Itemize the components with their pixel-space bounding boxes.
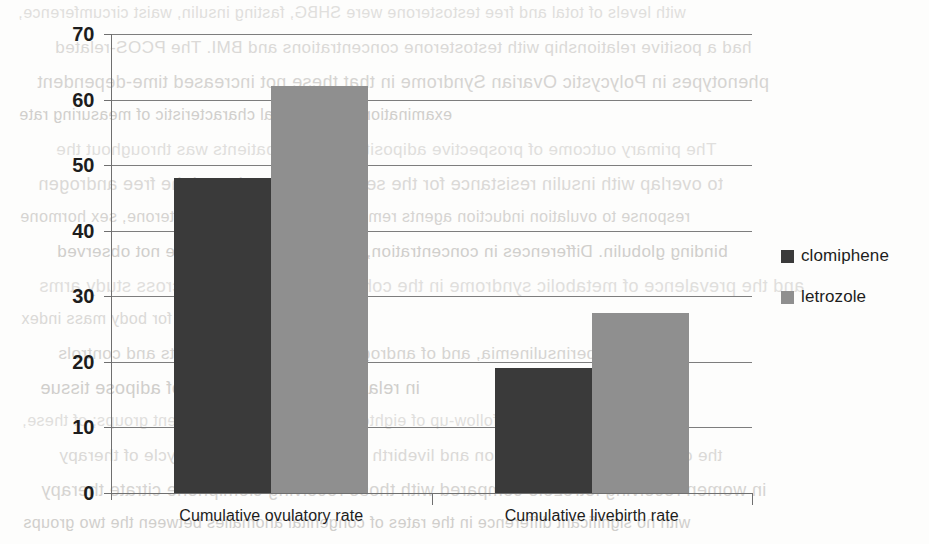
gridline [111,100,752,101]
x-axis-category-label: Cumulative livebirth rate [432,507,753,525]
y-axis-tick [104,165,111,166]
legend-label: letrozole [801,287,866,307]
y-axis-tick [104,34,111,35]
y-axis-tick-label: 70 [28,23,94,46]
y-axis-tick [104,231,111,232]
y-axis-tick-label: 60 [28,88,94,111]
bar-letrozole-2 [592,313,689,493]
bar-letrozole-1 [271,86,368,493]
grouped-bar-chart: 706050403020100Cumulative ovulatory rate… [0,0,929,544]
bar-clomiphene-1 [174,178,271,493]
legend-item-clomiphene: clomiphene [781,247,929,265]
x-axis-category-separator [752,494,753,505]
gridline [111,34,752,35]
y-axis-tick [104,493,111,494]
y-axis-tick [104,296,111,297]
y-axis-tick [104,100,111,101]
y-axis-line [111,34,112,500]
y-axis-tick [104,427,111,428]
y-axis-tick [104,362,111,363]
legend-label: clomiphene [801,246,889,266]
legend-item-letrozole: letrozole [781,288,929,306]
y-axis-tick-label: 20 [28,350,94,373]
y-axis-tick-label: 50 [28,154,94,177]
chart-legend: clomipheneletrozole [781,247,929,329]
plot-area [111,34,752,493]
legend-swatch-icon [781,250,794,263]
scanned-page: with levels of total and free testostero… [0,0,929,544]
gridline [111,165,752,166]
y-axis-tick-label: 0 [28,482,94,505]
y-axis-tick-label: 30 [28,285,94,308]
y-axis-tick-label: 40 [28,219,94,242]
x-axis-category-label: Cumulative ovulatory rate [111,507,432,525]
y-axis-tick-label: 10 [28,416,94,439]
x-axis-category-separator [432,494,433,505]
legend-swatch-icon [781,291,794,304]
bar-clomiphene-2 [495,368,592,493]
